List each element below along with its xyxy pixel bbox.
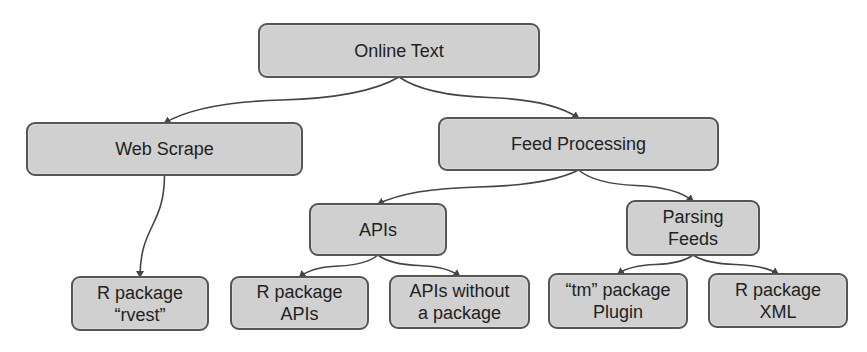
node-label-line: XML: [759, 301, 796, 323]
edge-feed-processing-to-parsing-feeds: [579, 170, 694, 201]
node-apis: APIs: [309, 203, 447, 256]
edge-online-text-to-feed-processing: [399, 77, 579, 118]
node-label-line: APIs: [280, 303, 318, 325]
edge-apis-to-r-package-apis: [300, 255, 379, 277]
node-label-line: “tm” package: [565, 279, 670, 301]
edge-apis-to-apis-without-package: [378, 255, 460, 276]
node-label-line: Plugin: [593, 301, 643, 323]
node-label-line: Parsing: [662, 206, 723, 228]
node-tm-package-plugin: “tm” packagePlugin: [548, 273, 688, 329]
node-apis-without-package: APIs withouta package: [389, 275, 530, 329]
node-label-line: R package: [735, 279, 821, 301]
node-label-line: Web Scrape: [115, 138, 214, 160]
node-r-package-xml: R packageXML: [708, 273, 848, 328]
edge-online-text-to-web-scrape: [165, 77, 400, 123]
node-label-line: Online Text: [354, 40, 444, 62]
node-label-line: “rvest”: [115, 304, 166, 326]
node-label-line: a package: [418, 302, 501, 324]
node-parsing-feeds: ParsingFeeds: [626, 200, 760, 256]
node-label-line: APIs without: [409, 280, 509, 302]
node-web-scrape: Web Scrape: [26, 122, 303, 176]
node-label-line: R package: [256, 281, 342, 303]
node-label-line: Feed Processing: [511, 133, 646, 155]
edge-web-scrape-to-r-package-rvest: [140, 175, 165, 277]
node-online-text: Online Text: [258, 23, 540, 78]
edge-feed-processing-to-apis: [378, 170, 579, 204]
node-r-package-apis: R packageAPIs: [230, 276, 369, 330]
node-label-line: APIs: [359, 219, 397, 241]
node-label-line: Feeds: [668, 228, 718, 250]
node-label-line: R package: [97, 282, 183, 304]
edge-parsing-feeds-to-tm-package-plugin: [618, 255, 693, 274]
tree-diagram: Online TextWeb ScrapeFeed ProcessingAPIs…: [0, 0, 867, 352]
node-r-package-rvest: R package“rvest”: [71, 276, 209, 331]
node-feed-processing: Feed Processing: [438, 117, 719, 171]
edge-parsing-feeds-to-r-package-xml: [693, 255, 778, 274]
